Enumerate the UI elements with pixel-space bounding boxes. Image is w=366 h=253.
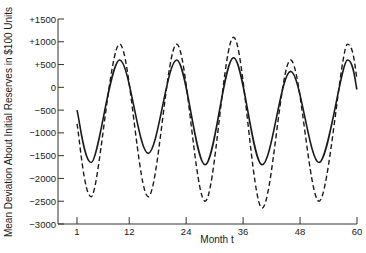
x-tick-label: 60 — [352, 226, 363, 237]
y-tick-label: −3000 — [29, 219, 56, 230]
y-tick-label: +1000 — [29, 36, 56, 47]
y-tick-label: −500 — [35, 105, 56, 116]
x-tick-label: 36 — [238, 226, 249, 237]
y-tick-label: −2500 — [29, 196, 56, 207]
x-tick-label: 12 — [124, 226, 135, 237]
y-tick-label: +500 — [35, 59, 56, 70]
y-tick-label: 0 — [51, 82, 56, 93]
x-tick-label: 24 — [181, 226, 192, 237]
y-tick-label: −1500 — [29, 150, 56, 161]
line-chart: +1500+1000+5000−500−1000−1500−2000−2500−… — [0, 0, 366, 253]
x-axis-label: Month t — [200, 234, 234, 245]
solid-series-line — [77, 58, 357, 165]
x-tick-label: 48 — [295, 226, 306, 237]
plot-area — [77, 37, 357, 208]
x-tick-label: 1 — [74, 226, 79, 237]
y-tick-label: −2000 — [29, 173, 56, 184]
y-axis-label: Mean Deviation About Initial Reserves in… — [3, 7, 14, 237]
y-axis: +1500+1000+5000−500−1000−1500−2000−2500−… — [29, 14, 64, 230]
y-tick-label: +1500 — [29, 14, 56, 25]
y-tick-label: −1000 — [29, 127, 56, 138]
